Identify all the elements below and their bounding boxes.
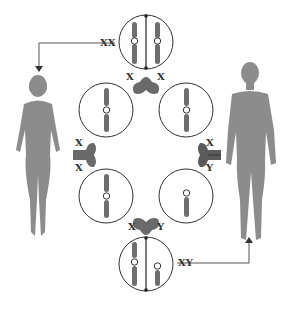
male-silhouette xyxy=(226,62,276,240)
label-left-junction-bottom: X xyxy=(75,163,83,173)
label-top-junction-left: X xyxy=(126,72,134,82)
female-silhouette xyxy=(16,75,60,236)
label-top-junction-right: X xyxy=(157,72,165,82)
diagram-canvas xyxy=(0,0,294,310)
arrowhead-icon xyxy=(35,66,43,72)
label-xy: XY xyxy=(178,258,193,268)
junction-top xyxy=(133,77,159,94)
label-left-junction-top: X xyxy=(75,138,83,148)
label-right-junction-top: X xyxy=(206,138,214,148)
arrowhead-icon xyxy=(245,237,253,243)
junction-bottom xyxy=(133,218,159,235)
label-bottom-junction-right: Y xyxy=(157,222,164,232)
label-xx: XX xyxy=(100,38,116,48)
label-bottom-junction-left: X xyxy=(128,222,136,232)
label-right-junction-bottom: Y xyxy=(206,163,213,173)
